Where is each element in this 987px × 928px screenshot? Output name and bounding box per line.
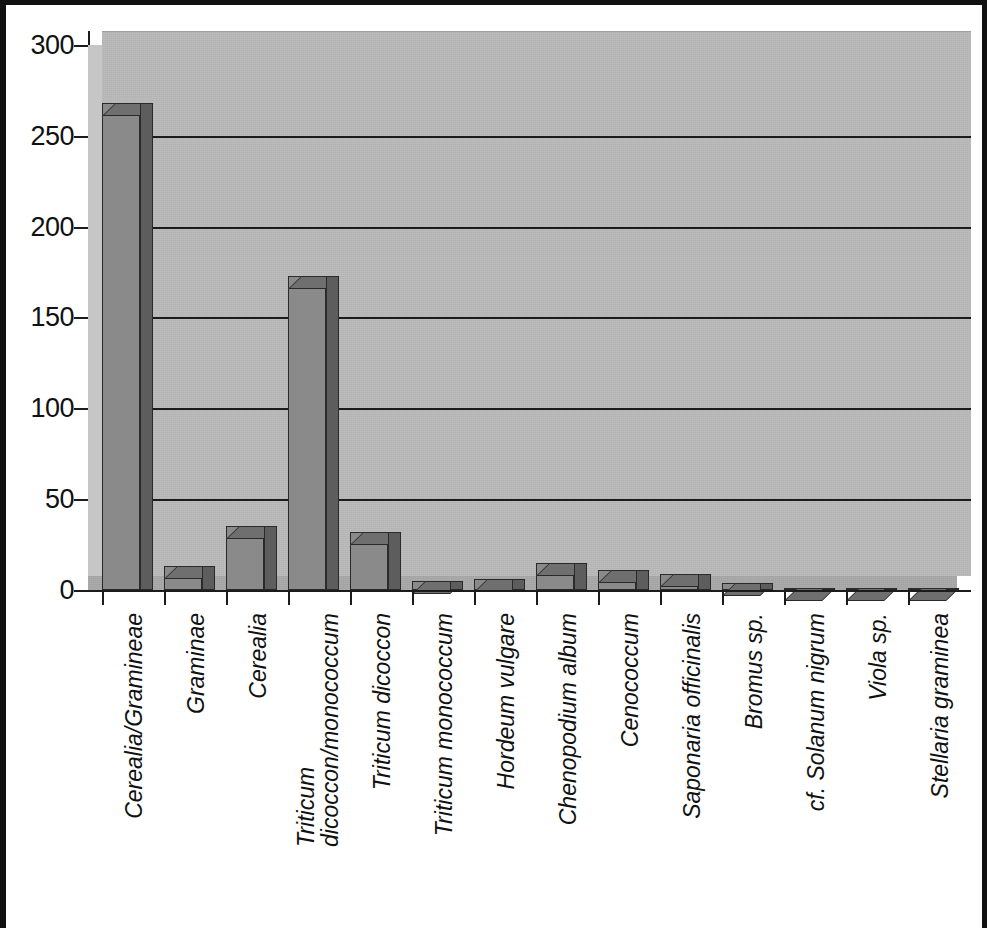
x-axis-label-triticum-monococcum: Triticum monococcum bbox=[432, 613, 456, 836]
gridline-250 bbox=[102, 136, 971, 138]
bar-bromus-sp bbox=[722, 569, 760, 590]
x-axis-label-cerealia-gramineae: Cerealia/Gramineae bbox=[122, 613, 146, 819]
bar-side bbox=[450, 581, 463, 590]
gridline-50 bbox=[102, 499, 971, 501]
x-axis-label-line2: dicoccon/monococcum bbox=[318, 613, 342, 847]
bar-saponaria-officinalis bbox=[660, 560, 698, 590]
bar-side bbox=[140, 103, 153, 590]
x-axis-line bbox=[88, 590, 971, 592]
y-axis-tick-label-50: 50 bbox=[45, 484, 74, 515]
plot-area bbox=[88, 31, 971, 590]
y-axis-tick-150 bbox=[74, 317, 88, 319]
bar-graminae bbox=[164, 552, 202, 590]
x-axis-label-chenopodium-album: Chenopodium album bbox=[556, 613, 580, 825]
x-axis-tick bbox=[474, 590, 476, 605]
x-axis-tick bbox=[288, 590, 290, 605]
y-axis-tick-300 bbox=[74, 45, 88, 47]
chart-frame: 300 250 200 150 100 50 0 bbox=[0, 0, 987, 928]
x-axis-tick bbox=[598, 590, 600, 605]
bar-triticum-dicoccon bbox=[350, 518, 388, 590]
x-axis-label-cerealia: Cerealia bbox=[246, 613, 270, 699]
x-axis-label-viola-sp: Viola sp. bbox=[866, 613, 890, 701]
x-axis-label-cf-solanum-nigrum: cf. Solanum nigrum bbox=[804, 613, 828, 811]
gridline-200 bbox=[102, 227, 971, 229]
x-axis-tick bbox=[908, 590, 910, 605]
x-axis-tick bbox=[164, 590, 166, 605]
x-axis-tick bbox=[660, 590, 662, 605]
x-axis-label-triticum-dicoccon: Triticum dicoccon bbox=[370, 613, 394, 790]
y-axis-labels: 300 250 200 150 100 50 0 bbox=[6, 5, 74, 928]
bar-side bbox=[574, 563, 587, 590]
bar-side bbox=[388, 532, 401, 590]
plot-wall-side bbox=[88, 45, 103, 590]
x-axis-tick bbox=[102, 590, 104, 605]
y-axis-tick-50 bbox=[74, 499, 88, 501]
x-axis-tick bbox=[226, 590, 228, 605]
x-axis-tick bbox=[722, 590, 724, 605]
x-axis-label-cenococcum: Cenococcum bbox=[618, 613, 642, 747]
y-axis-tick-label-200: 200 bbox=[30, 212, 74, 243]
bar-front bbox=[102, 103, 140, 590]
bar-side bbox=[698, 574, 711, 590]
bar-viola-sp bbox=[846, 574, 884, 590]
y-axis-tick-0 bbox=[74, 590, 88, 592]
x-axis-tick bbox=[412, 590, 414, 605]
x-axis-tick bbox=[846, 590, 848, 605]
x-axis-label-hordeum-vulgare: Hordeum vulgare bbox=[494, 613, 518, 789]
y-axis-tick-250 bbox=[74, 136, 88, 138]
bar-triticum-dicoccon-monococcum bbox=[288, 262, 326, 590]
plot-wall-top-edge bbox=[102, 31, 971, 577]
bar-cenococcum bbox=[598, 556, 636, 590]
x-axis-label-triticum-dicoccon-monococcum: Triticum dicoccon/monococcum bbox=[294, 613, 343, 847]
bar-side bbox=[326, 276, 339, 590]
y-axis-tick-label-150: 150 bbox=[30, 302, 74, 333]
x-axis-label-saponaria-officinalis: Saponaria officinalis bbox=[680, 613, 704, 819]
bar-side bbox=[636, 570, 649, 590]
bar-cerealia-gramineae bbox=[102, 89, 140, 590]
x-axis-label-bromus-sp: Bromus sp. bbox=[742, 613, 766, 729]
x-axis-label-stellaria-graminea: Stellaria graminea bbox=[928, 613, 952, 798]
bar-chenopodium-album bbox=[536, 549, 574, 590]
y-axis-tick-100 bbox=[74, 408, 88, 410]
x-axis-labels: Cerealia/Gramineae Graminae Cerealia Tri… bbox=[88, 605, 971, 925]
y-axis-tick-label-300: 300 bbox=[30, 30, 74, 61]
bar-side bbox=[202, 566, 215, 590]
bar-hordeum-vulgare bbox=[474, 565, 512, 590]
x-axis-tick bbox=[536, 590, 538, 605]
bar-cerealia bbox=[226, 512, 264, 590]
gridline-100 bbox=[102, 408, 971, 410]
bar-side bbox=[264, 526, 277, 590]
y-axis-tick-label-100: 100 bbox=[30, 393, 74, 424]
bar-triticum-monococcum bbox=[412, 567, 450, 590]
y-axis-tick-label-0: 0 bbox=[59, 575, 74, 606]
x-axis-tick bbox=[784, 590, 786, 605]
bar-side bbox=[512, 579, 525, 590]
bar-front bbox=[288, 276, 326, 590]
x-axis-tick bbox=[350, 590, 352, 605]
y-axis-tick-200 bbox=[74, 227, 88, 229]
x-axis-label-line1: Triticum bbox=[293, 767, 319, 847]
y-axis-tick-label-250: 250 bbox=[30, 121, 74, 152]
bar-side bbox=[760, 583, 773, 590]
bar-cf-solanum-nigrum bbox=[784, 574, 822, 590]
bar-stellaria-graminea bbox=[908, 574, 946, 590]
x-axis-label-graminae: Graminae bbox=[184, 613, 208, 714]
gridline-150 bbox=[102, 317, 971, 319]
